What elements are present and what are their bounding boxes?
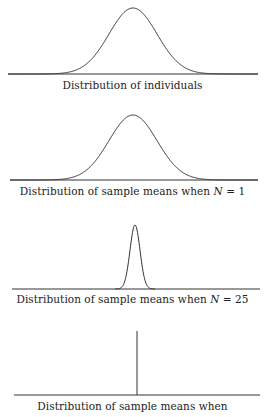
caption-sample-means-infinite: Distribution of sample means when bbox=[0, 400, 265, 412]
caption-text: Distribution of sample means when bbox=[20, 185, 214, 197]
distribution-plots bbox=[0, 0, 265, 417]
caption-value: = 25 bbox=[219, 293, 248, 305]
caption-sample-means-n1: Distribution of sample means when N = 1 bbox=[0, 185, 265, 197]
sampling-distribution-figure: Distribution of individuals Distribution… bbox=[0, 0, 265, 417]
caption-text: Distribution of individuals bbox=[62, 79, 202, 91]
caption-text: Distribution of sample means when bbox=[37, 400, 227, 412]
caption-text: Distribution of sample means when bbox=[16, 293, 210, 305]
panel-sample-means-n1 bbox=[10, 115, 258, 180]
caption-value: = 1 bbox=[223, 185, 245, 197]
caption-variable: N bbox=[214, 185, 223, 197]
normal-curve bbox=[10, 115, 258, 180]
panel-sample-means-n25 bbox=[12, 225, 260, 289]
caption-sample-means-n25: Distribution of sample means when N = 25 bbox=[0, 293, 265, 305]
normal-curve bbox=[8, 8, 258, 74]
panel-individuals bbox=[8, 8, 258, 74]
caption-individuals: Distribution of individuals bbox=[0, 79, 265, 91]
panel-sample-means-infinite bbox=[14, 331, 260, 395]
narrow-normal-curve bbox=[115, 225, 155, 289]
